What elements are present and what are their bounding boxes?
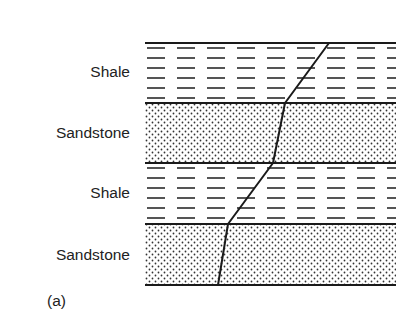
layer-label-shale-1: Shale: [0, 63, 130, 81]
figure-caption: (a): [47, 292, 66, 310]
stratigraphic-block-diagram: [0, 0, 414, 321]
layer-label-sandstone-1: Sandstone: [0, 124, 130, 142]
layer-label-sandstone-2: Sandstone: [0, 246, 130, 264]
layer-shale-upper: [145, 44, 396, 102]
layer-sandstone-upper: [145, 104, 396, 162]
layer-sandstone-lower: [145, 225, 396, 284]
layer-shale-lower: [145, 164, 396, 223]
layer-label-shale-2: Shale: [0, 184, 130, 202]
